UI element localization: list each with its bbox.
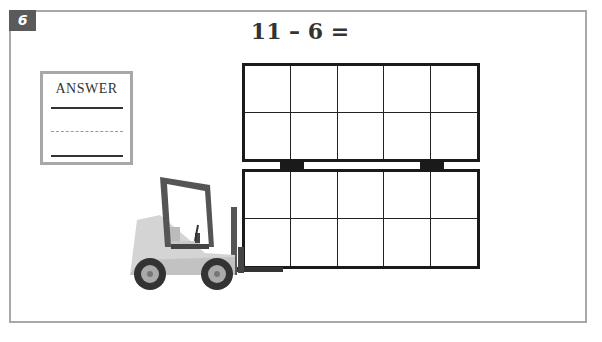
answer-top-line	[51, 107, 123, 109]
cell[interactable]	[291, 66, 337, 113]
cell[interactable]	[384, 66, 430, 113]
cell[interactable]	[338, 66, 384, 113]
answer-box[interactable]: ANSWER	[40, 71, 133, 165]
answer-bottom-line	[51, 155, 123, 157]
answer-mid-dashed-line	[51, 131, 123, 132]
cell[interactable]	[338, 172, 384, 219]
cell[interactable]	[245, 66, 291, 113]
cell[interactable]	[291, 172, 337, 219]
cell[interactable]	[291, 113, 337, 160]
cell[interactable]	[431, 113, 477, 160]
problem-number-badge: 6	[9, 10, 36, 31]
cell[interactable]	[431, 172, 477, 219]
equation: 11 – 6 =	[230, 18, 370, 44]
answer-label: ANSWER	[43, 81, 130, 97]
cell[interactable]	[338, 113, 384, 160]
cell[interactable]	[384, 113, 430, 160]
cell[interactable]	[384, 172, 430, 219]
cell[interactable]	[431, 219, 477, 266]
cell[interactable]	[384, 219, 430, 266]
cell[interactable]	[245, 113, 291, 160]
ten-frame-top	[242, 63, 480, 162]
forklift-icon	[125, 175, 285, 295]
cell[interactable]	[431, 66, 477, 113]
cell[interactable]	[291, 219, 337, 266]
cell[interactable]	[338, 219, 384, 266]
